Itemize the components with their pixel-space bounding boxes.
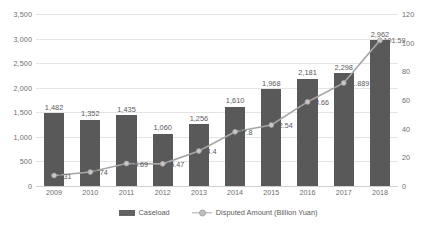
bar-data-label: 1,482 [45, 103, 64, 112]
line-data-label: 24.4 [202, 147, 216, 156]
bar-data-label: 2,298 [334, 63, 353, 72]
line-data-label: 58.66 [311, 97, 329, 106]
bar-slot: 1,352 [72, 14, 108, 186]
x-axis-tick: 2010 [72, 188, 108, 202]
bar-slot: 2,298 [326, 14, 362, 186]
legend-label-caseload: Caseload [139, 208, 170, 217]
bar [225, 107, 245, 186]
line-data-label: 15.69 [130, 159, 148, 168]
y-axis-right: 020406080100120 [402, 14, 434, 186]
y-right-tick: 100 [402, 38, 414, 47]
bar [334, 73, 354, 186]
x-axis-tick: 2011 [108, 188, 144, 202]
y-left-tick: 500 [20, 157, 32, 166]
x-axis-tick: 2009 [36, 188, 72, 202]
x-axis-tick: 2017 [326, 188, 362, 202]
y-axis-left: 05001,0001,5002,0002,5003,0003,500 [0, 14, 32, 186]
x-axis-tick: 2018 [362, 188, 398, 202]
y-left-tick: 3,500 [14, 10, 33, 19]
line-swatch-icon [192, 209, 212, 217]
y-left-tick: 2,500 [14, 59, 33, 68]
line-data-label: 71.889 [347, 78, 369, 87]
combo-chart: 05001,0001,5002,0002,5003,0003,500 1,482… [0, 0, 436, 232]
y-right-tick: 0 [402, 182, 406, 191]
y-left-tick: 2,000 [14, 83, 33, 92]
bar-data-label: 1,435 [117, 105, 136, 114]
x-axis-tick: 2016 [289, 188, 325, 202]
line-data-label: 9.74 [94, 168, 108, 177]
bar-slot: 1,256 [181, 14, 217, 186]
bar-data-label: 1,060 [153, 123, 172, 132]
y-left-tick: 1,000 [14, 132, 33, 141]
plot-area: 1,4821,3521,4351,0601,2561,6101,9682,181… [36, 14, 398, 186]
line-data-label: 7.31 [58, 171, 72, 180]
bar-swatch-icon [119, 210, 135, 216]
line-data-label: 37.8 [239, 127, 253, 136]
y-left-tick: 0 [28, 182, 32, 191]
legend-item-disputed-amount: Disputed Amount (Billion Yuan) [192, 208, 318, 217]
bar-data-label: 1,968 [262, 79, 281, 88]
y-right-tick: 40 [402, 124, 410, 133]
line-data-label: 15.47 [166, 159, 184, 168]
x-axis-tick: 2015 [253, 188, 289, 202]
bar [370, 40, 390, 186]
y-right-tick: 80 [402, 67, 410, 76]
bar-slot: 1,610 [217, 14, 253, 186]
y-right-tick: 20 [402, 153, 410, 162]
x-axis-tick: 2012 [145, 188, 181, 202]
x-axis-tick: 2013 [181, 188, 217, 202]
bar-data-label: 1,610 [226, 96, 245, 105]
bar-data-label: 1,352 [81, 109, 100, 118]
bar-data-label: 2,181 [298, 68, 317, 77]
line-data-label: 42.54 [275, 121, 293, 130]
bar-slot: 1,968 [253, 14, 289, 186]
x-axis-categories: 2009201020112012201320142015201620172018 [36, 188, 398, 202]
bar-slot: 1,482 [36, 14, 72, 186]
legend-label-disputed-amount: Disputed Amount (Billion Yuan) [216, 208, 318, 217]
bar [261, 89, 281, 186]
chart-legend: Caseload Disputed Amount (Billion Yuan) [0, 208, 436, 217]
legend-item-caseload: Caseload [119, 208, 170, 217]
bar [116, 115, 136, 186]
x-axis-tick: 2014 [217, 188, 253, 202]
bar [297, 79, 317, 186]
y-left-tick: 3,000 [14, 34, 33, 43]
y-right-tick: 60 [402, 96, 410, 105]
gridline [36, 186, 398, 187]
bar-data-label: 1,256 [190, 114, 209, 123]
y-left-tick: 1,500 [14, 108, 33, 117]
bar-series: 1,4821,3521,4351,0601,2561,6101,9682,181… [36, 14, 398, 186]
y-right-tick: 120 [402, 10, 414, 19]
